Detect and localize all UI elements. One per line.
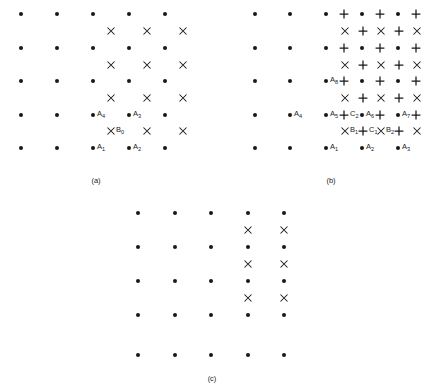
dot-marker — [282, 353, 286, 357]
dot-marker — [396, 146, 400, 150]
dot-marker — [173, 245, 177, 249]
cross-marker — [179, 61, 188, 70]
point-label: B2 — [386, 126, 394, 136]
dot-marker — [173, 353, 177, 357]
dot-marker — [209, 211, 213, 215]
cross-marker — [244, 226, 253, 235]
plus-marker — [339, 9, 349, 19]
point-label: B1 — [350, 126, 358, 136]
dot-marker — [136, 245, 140, 249]
plus-marker — [394, 26, 404, 36]
cross-marker — [280, 294, 289, 303]
dot-marker — [360, 46, 364, 50]
dot-marker — [209, 279, 213, 283]
dot-marker — [127, 12, 131, 16]
point-label: A1 — [330, 143, 338, 153]
cross-marker — [413, 127, 422, 136]
dot-marker — [91, 113, 95, 117]
point-label: A3 — [402, 143, 410, 153]
plus-marker — [394, 126, 404, 136]
cross-marker — [377, 127, 386, 136]
dot-marker — [282, 279, 286, 283]
cross-marker — [377, 27, 386, 36]
plus-marker — [411, 9, 421, 19]
dot-marker — [163, 46, 167, 50]
dot-marker — [282, 211, 286, 215]
plus-marker — [394, 93, 404, 103]
cross-marker — [244, 294, 253, 303]
point-label: A7 — [402, 110, 410, 120]
dot-marker — [19, 46, 23, 50]
cross-marker — [341, 61, 350, 70]
dot-marker — [163, 12, 167, 16]
point-label: A3 — [133, 110, 141, 120]
dot-marker — [91, 46, 95, 50]
dot-marker — [360, 79, 364, 83]
dot-marker — [253, 79, 257, 83]
plus-marker — [411, 76, 421, 86]
cross-marker — [280, 260, 289, 269]
cross-marker — [341, 94, 350, 103]
plus-marker — [339, 76, 349, 86]
point-label: A2 — [366, 143, 374, 153]
panel-caption: (b) — [326, 176, 335, 185]
dot-marker — [55, 12, 59, 16]
cross-marker — [107, 127, 116, 136]
cross-marker — [143, 61, 152, 70]
dot-marker — [282, 245, 286, 249]
dot-marker — [55, 113, 59, 117]
point-label: B0 — [116, 126, 124, 136]
lattice-figure: A4A3B0A1A2(a)A8A4A5C2A6A7B1C1B2A1A2A3(b)… — [0, 0, 439, 389]
dot-marker — [19, 113, 23, 117]
cross-marker — [107, 27, 116, 36]
dot-marker — [127, 46, 131, 50]
cross-marker — [341, 127, 350, 136]
dot-marker — [246, 245, 250, 249]
dot-marker — [246, 313, 250, 317]
dot-marker — [253, 12, 257, 16]
dot-marker — [173, 313, 177, 317]
dot-marker — [55, 146, 59, 150]
dot-marker — [253, 146, 257, 150]
point-label: C1 — [369, 126, 378, 136]
cross-marker — [179, 127, 188, 136]
dot-marker — [19, 79, 23, 83]
dot-marker — [288, 46, 292, 50]
dot-marker — [253, 46, 257, 50]
dot-marker — [288, 146, 292, 150]
plus-marker — [375, 9, 385, 19]
dot-marker — [246, 353, 250, 357]
cross-marker — [244, 260, 253, 269]
dot-marker — [136, 279, 140, 283]
cross-marker — [413, 94, 422, 103]
cross-marker — [341, 27, 350, 36]
plus-marker — [411, 110, 421, 120]
panel-caption: (c) — [208, 374, 217, 383]
dot-marker — [173, 211, 177, 215]
dot-marker — [288, 12, 292, 16]
dot-marker — [209, 353, 213, 357]
point-label: A2 — [133, 143, 141, 153]
plus-marker — [339, 43, 349, 53]
cross-marker — [413, 27, 422, 36]
cross-marker — [143, 94, 152, 103]
plus-marker — [358, 26, 368, 36]
dot-marker — [127, 79, 131, 83]
point-label: A4 — [97, 110, 105, 120]
dot-marker — [396, 46, 400, 50]
cross-marker — [179, 94, 188, 103]
dot-marker — [288, 113, 292, 117]
dot-marker — [253, 113, 257, 117]
point-label: A1 — [97, 143, 105, 153]
cross-marker — [107, 94, 116, 103]
dot-marker — [173, 279, 177, 283]
dot-marker — [360, 113, 364, 117]
cross-marker — [179, 27, 188, 36]
dot-marker — [127, 113, 131, 117]
dot-marker — [246, 279, 250, 283]
dot-marker — [324, 12, 328, 16]
cross-marker — [280, 226, 289, 235]
plus-marker — [358, 93, 368, 103]
panel-caption: (a) — [91, 176, 100, 185]
point-label: A5 — [330, 110, 338, 120]
